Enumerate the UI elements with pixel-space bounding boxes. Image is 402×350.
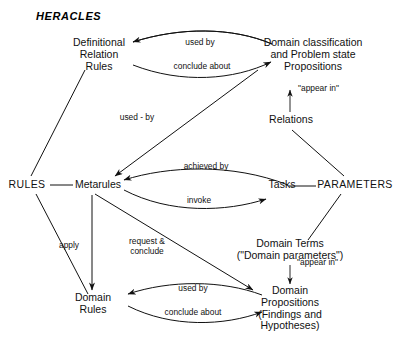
edge-label-conclude-about-top: conclude about [152,62,252,72]
node-parameters[interactable]: PARAMETERS [316,179,394,191]
node-domain-rules[interactable]: Domain Rules [66,292,120,316]
edge-label-used-by-bottom: used by [158,284,228,294]
diagram-canvas: HERACLES [0,0,402,350]
edge-defrules-rules [31,70,85,176]
node-tasks[interactable]: Tasks [265,179,299,191]
node-domain-classification[interactable]: Domain classification and Problem state … [248,37,378,72]
edge-label-appear-in-relations: "appear in" [298,84,362,94]
edge-label-apply: apply [48,241,90,251]
node-relations[interactable]: Relations [262,114,320,126]
edge-label-invoke: invoke [176,196,222,206]
edge-label-used-by-diagonal: used - by [104,113,170,123]
edge-label-used-by-top: used by [165,38,235,48]
node-rules[interactable]: RULES [4,179,50,191]
edge-relations-parameters [292,130,344,176]
node-metarules[interactable]: Metarules [72,179,124,191]
node-domain-propositions[interactable]: Domain Propositions (Findings and Hypoth… [232,285,348,332]
edge-label-request-conclude: request & conclude [113,237,181,256]
edge-label-appear-in-terms: "appear in" [297,258,361,268]
edge-label-conclude-about-bottom: conclude about [144,308,242,318]
node-definitional-relation-rules[interactable]: Definitional Relation Rules [62,37,136,72]
edge-parameters-domainterms [308,194,341,240]
edge-label-achieved-by: achieved by [168,162,244,172]
